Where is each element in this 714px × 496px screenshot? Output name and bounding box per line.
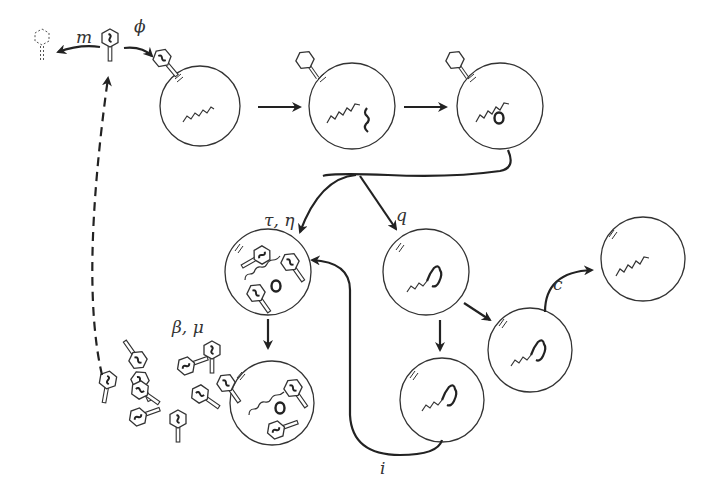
adsorption-arrow <box>124 48 152 56</box>
injected-cell <box>293 48 395 149</box>
decay-arrow <box>58 46 100 52</box>
lytic-label: τ, η <box>264 210 295 230</box>
burst-label: β, μ <box>171 317 204 337</box>
decision-curve <box>323 150 511 176</box>
induction-label: i <box>380 458 385 478</box>
adsorbed-cell <box>150 46 240 146</box>
lytic-cell <box>225 229 311 316</box>
lysogen-daughter-1 <box>400 358 484 442</box>
decay-label: m <box>76 27 92 47</box>
circularized-cell <box>443 48 543 149</box>
lytic-arrow <box>300 175 356 232</box>
released-phages <box>96 337 223 442</box>
lysogen-daughter-2 <box>488 308 572 392</box>
curing-label: c <box>553 274 563 294</box>
burst-cell <box>214 361 314 445</box>
free-phage <box>102 29 118 61</box>
lysogeny-label: q <box>396 205 407 225</box>
lysogeny-arrow <box>360 176 396 229</box>
induction-arrow <box>312 260 442 455</box>
lysogen-division-right-arrow <box>464 303 490 320</box>
cured-cell <box>601 217 685 301</box>
adsorption-label: ϕ <box>134 16 146 36</box>
decayed-phage <box>35 29 49 60</box>
lysogen-cell <box>383 229 469 315</box>
reinfection-arrow <box>92 78 108 375</box>
phage-lifecycle-diagram: m ϕ τ, η q <box>0 0 714 496</box>
